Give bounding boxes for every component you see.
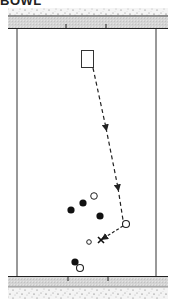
bottom-boundary: [8, 277, 168, 299]
open-player-marker: [87, 240, 92, 245]
run-path-segment: [118, 188, 123, 220]
filled-player-marker: [96, 212, 103, 219]
open-player-marker: [91, 193, 98, 200]
open-player-marker: [77, 265, 84, 272]
bottom-rail: [8, 277, 168, 287]
filled-player-marker: [67, 206, 74, 213]
filled-player-marker: [79, 199, 86, 206]
pass-arrow: [104, 226, 123, 238]
target-box: [82, 51, 94, 68]
top-boundary: [8, 8, 168, 29]
open-player-marker: [123, 221, 130, 228]
filled-player-marker: [71, 258, 78, 265]
top-gravel: [8, 8, 168, 16]
play-diagram: [0, 0, 175, 299]
bottom-gravel: [8, 288, 168, 299]
run-path-segment: [106, 128, 118, 188]
top-rail: [8, 17, 168, 28]
run-path-segment: [93, 68, 106, 128]
x-marker-icon: [98, 237, 104, 243]
